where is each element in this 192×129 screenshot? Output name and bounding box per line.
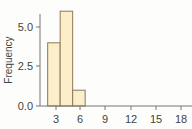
x-tick-label: 12: [125, 113, 137, 125]
histogram-bar: [60, 11, 73, 106]
x-tick-label: 9: [102, 113, 108, 125]
x-tick-label: 18: [175, 113, 187, 125]
y-tick-label: 5.0: [18, 21, 33, 33]
histogram-bar: [48, 43, 61, 106]
histogram-chart: 0.0 2.5 5.0 3 6 9 12 15 18 Frequency: [0, 0, 192, 129]
x-tick-label: 3: [53, 113, 59, 125]
histogram-bar: [73, 90, 86, 106]
bars: [48, 11, 85, 106]
y-ticks: 0.0 2.5 5.0: [18, 21, 40, 112]
y-axis-label: Frequency: [3, 36, 14, 83]
x-ticks: 3 6 9 12 15 18: [53, 106, 187, 125]
y-tick-label: 2.5: [18, 60, 33, 72]
y-tick-label: 0.0: [18, 100, 33, 112]
x-tick-label: 6: [77, 113, 83, 125]
x-tick-label: 15: [150, 113, 162, 125]
